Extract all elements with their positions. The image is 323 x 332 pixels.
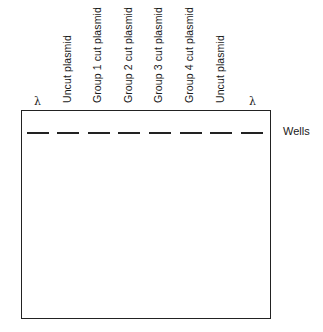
well-4 [118,132,140,134]
lambda-label-left: λ [34,95,41,108]
well-7 [210,132,232,134]
well-3 [88,132,110,134]
well-5 [149,132,171,134]
well-6 [180,132,202,134]
wells-label: Wells [283,125,310,137]
lambda-label-right: λ [249,95,256,108]
gel-box [21,110,271,319]
well-1 [27,132,49,134]
well-8 [241,132,263,134]
well-2 [57,132,79,134]
